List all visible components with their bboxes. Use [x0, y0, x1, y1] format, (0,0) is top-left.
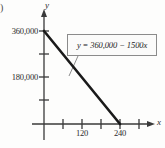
x-tick-label-240: 240 [105, 128, 135, 138]
x-tick-label-120: 120 [67, 128, 97, 138]
y-tick-label-360000: 360,000 [0, 26, 38, 36]
x-axis [32, 121, 155, 127]
y-axis-label: y [45, 0, 49, 10]
y-tick-label-180000: 180,000 [0, 72, 38, 82]
equation-callout-box: y = 360,000 − 1500x [67, 34, 157, 56]
y-axis [41, 9, 47, 140]
x-axis-label: x [157, 117, 161, 127]
equation-text: y = 360,000 − 1500x [77, 40, 147, 50]
linear-graph-figure: ) y x 36 [0, 0, 165, 148]
